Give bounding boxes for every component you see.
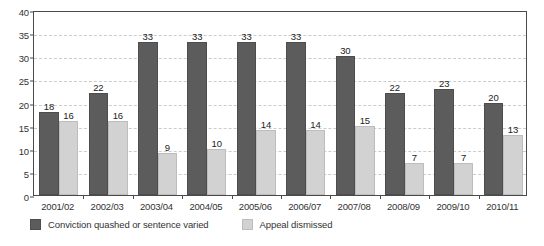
y-tick-label: 40 bbox=[19, 7, 29, 18]
bar-group: 3015 bbox=[336, 12, 375, 195]
bar[interactable]: 13 bbox=[503, 135, 523, 195]
x-tick-mark bbox=[182, 195, 183, 199]
bar-value-label: 20 bbox=[488, 92, 498, 103]
bar-value-label: 33 bbox=[291, 31, 301, 42]
x-category-label: 2010/11 bbox=[478, 201, 527, 212]
bar[interactable]: 33 bbox=[138, 42, 158, 195]
x-tick-mark bbox=[281, 195, 282, 199]
x-tick-mark bbox=[330, 195, 331, 199]
y-tick-label: 20 bbox=[19, 99, 29, 110]
bar[interactable]: 33 bbox=[286, 42, 306, 195]
bar[interactable]: 33 bbox=[187, 42, 207, 195]
bar-value-label: 33 bbox=[241, 31, 251, 42]
bar[interactable]: 16 bbox=[59, 121, 79, 195]
x-category-label: 2008/09 bbox=[379, 201, 428, 212]
x-category-label: 2003/04 bbox=[132, 201, 181, 212]
x-tick-mark bbox=[380, 195, 381, 199]
bar-value-label: 22 bbox=[93, 82, 103, 93]
bar-group: 1816 bbox=[39, 12, 78, 195]
y-tick-label: 10 bbox=[19, 145, 29, 156]
bar-value-label: 16 bbox=[113, 110, 123, 121]
x-tick-mark bbox=[133, 195, 134, 199]
y-tick-label: 25 bbox=[19, 76, 29, 87]
bar-group: 3314 bbox=[286, 12, 325, 195]
bar-value-label: 33 bbox=[143, 31, 153, 42]
bar[interactable]: 23 bbox=[434, 89, 454, 195]
bar[interactable]: 16 bbox=[108, 121, 128, 195]
y-tick-label: 5 bbox=[24, 168, 29, 179]
bar[interactable]: 9 bbox=[158, 153, 178, 195]
bar-group: 237 bbox=[434, 12, 473, 195]
bar-value-label: 10 bbox=[211, 138, 221, 149]
bar[interactable]: 22 bbox=[385, 93, 405, 195]
x-category-label: 2001/02 bbox=[33, 201, 82, 212]
x-tick-mark bbox=[479, 195, 480, 199]
bar-value-label: 13 bbox=[508, 124, 518, 135]
x-tick-mark bbox=[83, 195, 84, 199]
x-tick-mark bbox=[429, 195, 430, 199]
bar-group: 227 bbox=[385, 12, 424, 195]
bar-group: 2216 bbox=[89, 12, 128, 195]
bar-group: 3314 bbox=[237, 12, 276, 195]
bar[interactable]: 10 bbox=[207, 149, 227, 195]
bar-value-label: 33 bbox=[192, 31, 202, 42]
x-tick-mark bbox=[232, 195, 233, 199]
bar-value-label: 18 bbox=[44, 101, 54, 112]
bar-group: 2013 bbox=[484, 12, 523, 195]
bar[interactable]: 18 bbox=[39, 112, 59, 195]
legend-item-appeal-dismissed[interactable]: Appeal dismissed bbox=[242, 219, 333, 230]
legend-swatch-icon-conviction-quashed bbox=[30, 219, 41, 230]
bar-value-label: 30 bbox=[340, 45, 350, 56]
bar-group: 339 bbox=[138, 12, 177, 195]
bars-container: 1816221633933103314331430152272372013 bbox=[34, 12, 526, 195]
x-category-label: 2009/10 bbox=[428, 201, 477, 212]
bar-value-label: 9 bbox=[165, 142, 170, 153]
bar-value-label: 23 bbox=[439, 78, 449, 89]
legend-label-appeal-dismissed: Appeal dismissed bbox=[260, 219, 333, 230]
x-category-label: 2004/05 bbox=[181, 201, 230, 212]
x-category-label: 2002/03 bbox=[82, 201, 131, 212]
legend-swatch-icon-appeal-dismissed bbox=[242, 219, 253, 230]
bar-chart: 0510152025303540 18162216339331033143314… bbox=[0, 0, 544, 246]
bar-value-label: 7 bbox=[461, 152, 466, 163]
plot-area: 0510152025303540 18162216339331033143314… bbox=[33, 11, 527, 196]
bar[interactable]: 30 bbox=[336, 56, 356, 195]
legend-item-conviction-quashed[interactable]: Conviction quashed or sentence varied bbox=[30, 219, 209, 230]
x-category-label: 2007/08 bbox=[329, 201, 378, 212]
x-category-label: 2006/07 bbox=[280, 201, 329, 212]
y-tick-label: 35 bbox=[19, 30, 29, 41]
bar[interactable]: 7 bbox=[405, 163, 425, 195]
chart-legend: Conviction quashed or sentence varied Ap… bbox=[30, 219, 332, 230]
y-tick-label: 30 bbox=[19, 53, 29, 64]
bar[interactable]: 33 bbox=[237, 42, 257, 195]
y-tick-label: 15 bbox=[19, 122, 29, 133]
y-tick-label: 0 bbox=[24, 192, 29, 203]
y-tick-mark bbox=[30, 197, 34, 198]
bar[interactable]: 20 bbox=[484, 103, 504, 196]
x-category-label: 2005/06 bbox=[231, 201, 280, 212]
bar[interactable]: 14 bbox=[256, 130, 276, 195]
bar[interactable]: 7 bbox=[454, 163, 474, 195]
bar[interactable]: 14 bbox=[306, 130, 326, 195]
bar[interactable]: 22 bbox=[89, 93, 109, 195]
bar-value-label: 16 bbox=[63, 110, 73, 121]
bar-value-label: 7 bbox=[412, 152, 417, 163]
bar-value-label: 22 bbox=[390, 82, 400, 93]
legend-label-conviction-quashed: Conviction quashed or sentence varied bbox=[48, 219, 209, 230]
bar-group: 3310 bbox=[187, 12, 226, 195]
bar-value-label: 14 bbox=[261, 119, 271, 130]
bar[interactable]: 15 bbox=[355, 126, 375, 195]
bar-value-label: 15 bbox=[360, 115, 370, 126]
bar-value-label: 14 bbox=[310, 119, 320, 130]
